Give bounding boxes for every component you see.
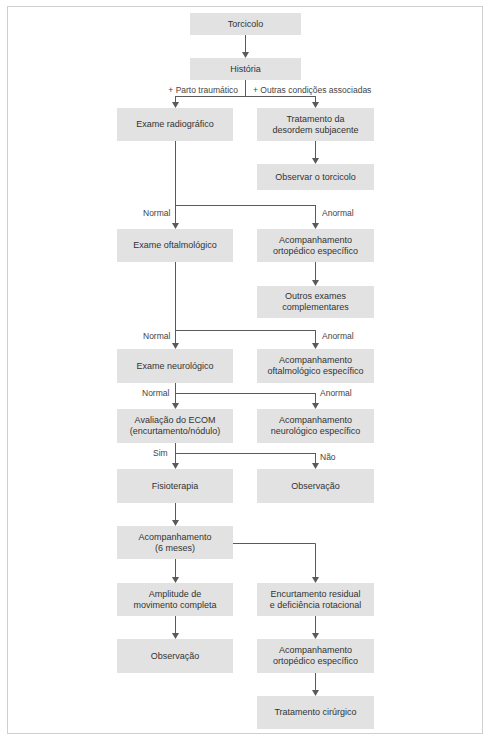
label-anormal-3: Anormal	[320, 388, 352, 398]
label-anormal-2: Anormal	[322, 331, 354, 341]
label-normal-2: Normal	[143, 331, 170, 341]
node-observacao-2: Observação	[117, 639, 233, 673]
node-fisioterapia: Fisioterapia	[117, 469, 233, 503]
label-normal-1: Normal	[143, 208, 170, 218]
node-acomp-ortopedico-2: Acompanhamento ortopédico específico	[257, 639, 374, 673]
label-outras-condicoes: + Outras condições associadas	[253, 85, 371, 95]
node-historia: História	[190, 58, 301, 80]
node-exame-neurologico: Exame neurológico	[117, 349, 233, 383]
node-exame-oftalmologico: Exame oftalmológico	[117, 229, 233, 262]
node-observacao-1: Observação	[257, 469, 374, 503]
label-anormal-1: Anormal	[322, 208, 354, 218]
node-acomp-neurologico: Acompanhamento neurológico específico	[257, 409, 374, 443]
label-sim: Sim	[153, 448, 168, 458]
label-nao: Não	[320, 452, 336, 462]
node-acomp-oftalmologico: Acompanhamento oftalmológico específico	[257, 349, 374, 383]
node-encurtamento: Encurtamento residual e deficiência rota…	[257, 583, 374, 616]
node-torcicolo: Torcicolo	[190, 13, 301, 35]
node-exame-radiografico: Exame radiográfico	[117, 108, 233, 141]
connector-lines	[0, 0, 489, 743]
label-parto-traumatico: + Parto traumático	[168, 85, 238, 95]
label-normal-3: Normal	[142, 388, 169, 398]
node-avaliacao-ecom: Avaliação do ECOM (encurtamento/nódulo)	[117, 409, 233, 443]
node-acomp-6meses: Acompanhamento (6 meses)	[117, 526, 233, 559]
node-observar-torcicolo: Observar o torcicolo	[257, 164, 374, 190]
node-tratamento-cirurgico: Tratamento cirúrgico	[257, 696, 374, 729]
node-tratamento-desordem: Tratamento da desordem subjacente	[257, 108, 374, 141]
node-amplitude: Amplitude de movimento completa	[117, 583, 233, 616]
node-acomp-ortopedico-1: Acompanhamento ortopédico específico	[257, 229, 374, 262]
node-outros-exames: Outros exames complementares	[257, 286, 374, 318]
